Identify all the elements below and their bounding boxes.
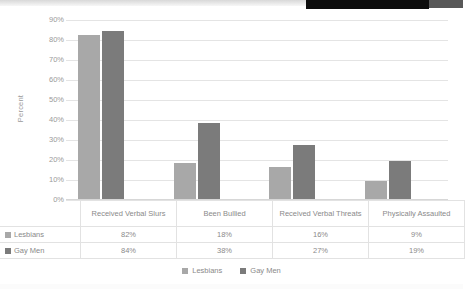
y-axis-tick-label: 90%: [22, 15, 64, 24]
bar-group: [162, 20, 258, 199]
table-row-label: Gay Men: [14, 246, 44, 255]
legend-label: Gay Men: [250, 266, 280, 275]
bar-group: [353, 20, 449, 199]
table-column-header: Received Verbal Slurs: [81, 201, 177, 227]
bar[interactable]: [78, 35, 100, 199]
table-cell: 84%: [81, 243, 177, 259]
bar[interactable]: [293, 145, 315, 199]
plot-area: 0%10%20%30%40%50%60%70%80%90%: [66, 20, 448, 200]
y-axis-title: Percent: [16, 79, 25, 139]
table-row: Gay Men84%38%27%19%: [0, 243, 465, 259]
legend-swatch-icon: [182, 268, 188, 274]
table-corner-cell: [0, 201, 81, 227]
chart-legend: LesbiansGay Men: [0, 266, 463, 275]
table-cell: 38%: [177, 243, 273, 259]
table-cell: 16%: [273, 227, 369, 243]
bar[interactable]: [269, 167, 291, 199]
legend-item[interactable]: Gay Men: [240, 266, 280, 275]
bar[interactable]: [365, 181, 387, 199]
legend-label: Lesbians: [192, 266, 222, 275]
table-row-label: Lesbians: [14, 230, 44, 239]
legend-item[interactable]: Lesbians: [182, 266, 222, 275]
table-cell: 27%: [273, 243, 369, 259]
legend-swatch-icon: [240, 268, 246, 274]
bar[interactable]: [389, 161, 411, 199]
table-row-header: Gay Men: [0, 243, 81, 259]
scan-artifact-black-bar-tail: [429, 0, 463, 8]
table-cell: 82%: [81, 227, 177, 243]
bar[interactable]: [174, 163, 196, 199]
table-cell: 18%: [177, 227, 273, 243]
bar-chart: Percent 0%10%20%30%40%50%60%70%80%90% Re…: [0, 8, 463, 281]
y-axis-tick-label: 40%: [22, 115, 64, 124]
y-axis-tick-label: 80%: [22, 35, 64, 44]
table-header-row: Received Verbal SlursBeen BulliedReceive…: [0, 201, 465, 227]
bar-group: [257, 20, 353, 199]
table-column-header: Physically Assaulted: [369, 201, 465, 227]
table-cell: 9%: [369, 227, 465, 243]
y-axis-tick-label: 50%: [22, 95, 64, 104]
scan-artifact-bottom: [0, 284, 463, 289]
table-column-header: Been Bullied: [177, 201, 273, 227]
y-axis-tick-label: 30%: [22, 135, 64, 144]
bar-group: [66, 20, 162, 199]
y-axis-tick-label: 10%: [22, 175, 64, 184]
y-axis-tick-label: 60%: [22, 75, 64, 84]
y-axis-tick-label: 20%: [22, 155, 64, 164]
series-swatch-icon: [5, 232, 11, 238]
table-cell: 19%: [369, 243, 465, 259]
bar[interactable]: [102, 31, 124, 199]
table-row-header: Lesbians: [0, 227, 81, 243]
bar[interactable]: [198, 123, 220, 199]
y-axis-tick-label: 70%: [22, 55, 64, 64]
table-row: Lesbians82%18%16%9%: [0, 227, 465, 243]
table-column-header: Received Verbal Threats: [273, 201, 369, 227]
series-swatch-icon: [5, 248, 11, 254]
data-table: Received Verbal SlursBeen BulliedReceive…: [0, 200, 465, 259]
